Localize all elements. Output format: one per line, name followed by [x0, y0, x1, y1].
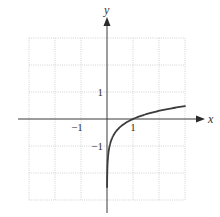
- x-axis-arrow-icon: [196, 116, 205, 123]
- x-tick-label: −1: [71, 121, 83, 133]
- log-curve: [107, 106, 185, 187]
- x-axis-label: x: [207, 112, 214, 126]
- log-function-chart: x y −111−1: [0, 0, 220, 217]
- y-tick-label: 1: [98, 86, 104, 98]
- x-tick-label: 1: [130, 121, 136, 133]
- y-axis-arrow-icon: [104, 17, 111, 26]
- y-axis-label: y: [103, 3, 110, 17]
- y-tick-label: −1: [91, 140, 103, 152]
